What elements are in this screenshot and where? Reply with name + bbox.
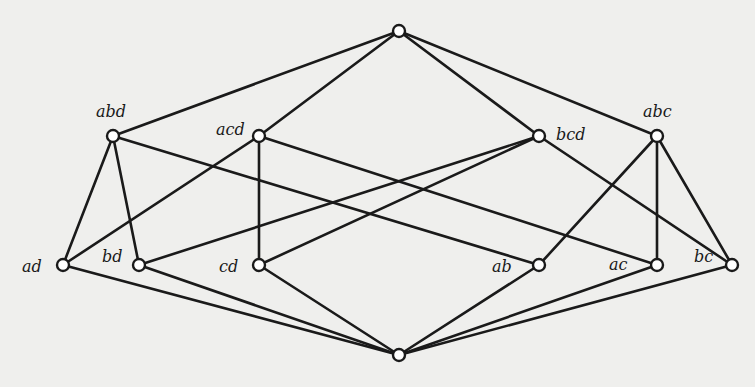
edge-abc-bc: [657, 136, 732, 265]
edges-group: [63, 31, 732, 355]
edge-bcd-cd: [259, 136, 539, 265]
node-ab: [533, 259, 545, 271]
edge-top-abd: [113, 31, 399, 136]
node-bc: [726, 259, 738, 271]
label-ab: ab: [492, 257, 512, 276]
node-ac: [651, 259, 663, 271]
label-ac: ac: [609, 255, 628, 274]
edge-ab-bottom: [399, 265, 539, 355]
label-bd: bd: [102, 247, 122, 266]
node-abd: [107, 130, 119, 142]
edge-bc-bottom: [399, 265, 732, 355]
label-abc: abc: [643, 102, 672, 121]
label-bc: bc: [694, 247, 713, 266]
node-bd: [133, 259, 145, 271]
lattice-diagram: abdacdbcdabcadbdcdabacbc: [0, 0, 755, 387]
edge-bd-bottom: [139, 265, 399, 355]
node-ad: [57, 259, 69, 271]
label-ad: ad: [22, 257, 42, 276]
edge-bcd-bc: [539, 136, 732, 265]
edge-abd-bd: [113, 136, 139, 265]
edge-top-abc: [399, 31, 657, 136]
edge-cd-bottom: [259, 265, 399, 355]
edge-ac-bottom: [399, 265, 657, 355]
label-cd: cd: [219, 257, 238, 276]
node-abc: [651, 130, 663, 142]
label-acd: acd: [216, 120, 245, 139]
edge-ad-bottom: [63, 265, 399, 355]
edge-top-bcd: [399, 31, 539, 136]
edge-acd-ad: [63, 136, 259, 265]
node-top: [393, 25, 405, 37]
edge-top-acd: [259, 31, 399, 136]
node-acd: [253, 130, 265, 142]
node-bottom: [393, 349, 405, 361]
edge-abd-ad: [63, 136, 113, 265]
node-cd: [253, 259, 265, 271]
label-abd: abd: [96, 102, 126, 121]
nodes-group: [57, 25, 738, 361]
node-bcd: [533, 130, 545, 142]
label-bcd: bcd: [556, 125, 585, 144]
